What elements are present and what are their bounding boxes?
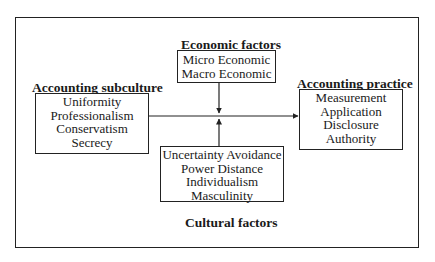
connector-arrows xyxy=(0,0,435,262)
